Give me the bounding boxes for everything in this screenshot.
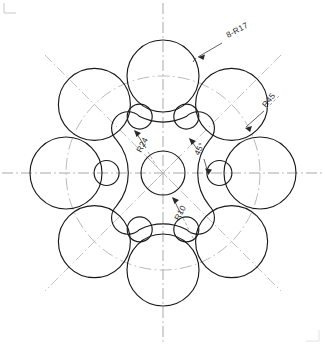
lobe-circle-2 xyxy=(196,68,268,140)
dim-label-8r17: 8-R17 xyxy=(225,21,250,40)
leader-arrowhead-r24 xyxy=(134,130,141,137)
leader-arrowhead-angle-lower xyxy=(205,169,212,176)
corner-mark-bottom-right xyxy=(306,330,319,341)
leader-arrowhead-angle-upper xyxy=(189,138,196,145)
dim-label-r10: R10 xyxy=(173,204,188,222)
corner-mark-top-left xyxy=(4,3,16,13)
dim-label-r24: R24 xyxy=(135,136,150,154)
dim-label-angle-45: 45° xyxy=(193,141,207,157)
technical-drawing-canvas: 8-R17 R45 R24 45° R10 xyxy=(0,0,325,345)
drawing-svg-root: 8-R17 R45 R24 45° R10 xyxy=(0,0,325,345)
leader-line-8r17 xyxy=(198,43,222,57)
leader-arrowhead-r10 xyxy=(172,197,179,204)
